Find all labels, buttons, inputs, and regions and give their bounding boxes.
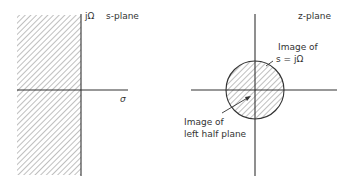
s-plane-real-axis-label: σ [120,94,126,104]
left-half-plane-shading [17,15,81,175]
interior-annotation-line2: left half plane [184,129,247,139]
unit-circle-annotation-line2: s = jΩ [276,54,303,64]
s-plane-panel: jΩ s-plane σ [17,11,139,176]
s-to-z-mapping-diagram: jΩ s-plane σ z-plane Image of s = jΩ Ima… [0,0,353,182]
interior-annotation-line1: Image of [184,117,225,127]
s-plane-imag-axis-label: jΩ [84,11,95,21]
z-plane-panel: z-plane Image of s = jΩ Image of left ha… [184,11,337,176]
unit-circle-annotation-line1: Image of [278,42,319,52]
s-plane-title: s-plane [106,11,139,21]
z-plane-title: z-plane [298,11,331,21]
